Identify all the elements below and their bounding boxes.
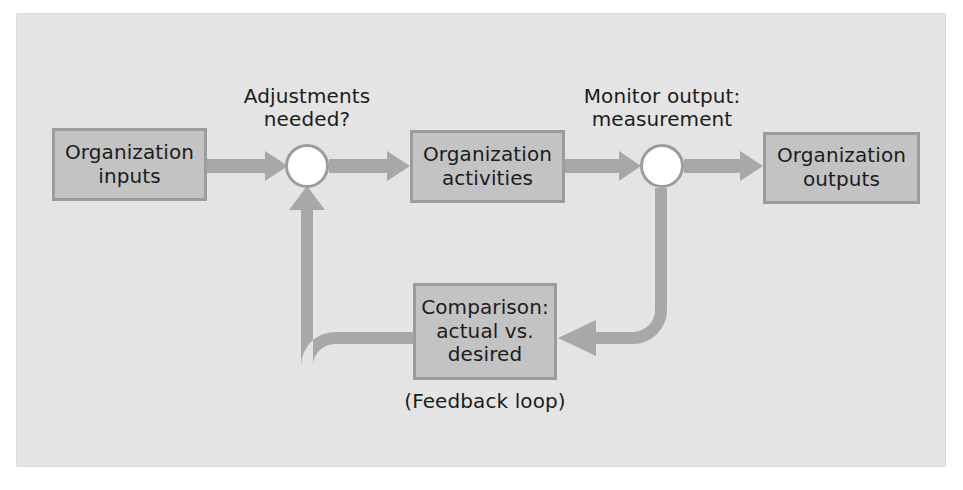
junction-monitor-label: Monitor output: measurement [572, 85, 752, 131]
junction-adjustments-label: Adjustments needed? [227, 85, 387, 131]
arrow-monitor-to-outputs [684, 151, 763, 181]
arrow-inputs-to-adjustments [207, 151, 288, 181]
node-comparison[interactable]: Comparison: actual vs. desired [413, 283, 557, 380]
arrow-activities-to-monitor [565, 151, 641, 181]
node-organization-outputs[interactable]: Organization outputs [763, 132, 920, 204]
arrow-comparison-to-adjustments [289, 186, 413, 366]
connector-layer [0, 0, 963, 490]
arrow-adjustments-to-activities [329, 151, 410, 181]
node-comparison-label: Comparison: actual vs. desired [415, 296, 555, 367]
junction-monitor-node[interactable] [640, 144, 684, 188]
arrow-monitor-to-comparison [558, 188, 667, 356]
node-organization-inputs-label: Organization inputs [59, 141, 200, 188]
node-organization-activities[interactable]: Organization activities [410, 130, 565, 203]
junction-adjustments-node[interactable] [285, 144, 329, 188]
node-organization-activities-label: Organization activities [417, 143, 558, 190]
figure-container: Organization inputs Adjustments needed? … [0, 0, 963, 490]
node-organization-inputs[interactable]: Organization inputs [52, 128, 207, 201]
node-organization-outputs-label: Organization outputs [771, 144, 912, 191]
feedback-loop-annotation: (Feedback loop) [395, 390, 575, 413]
